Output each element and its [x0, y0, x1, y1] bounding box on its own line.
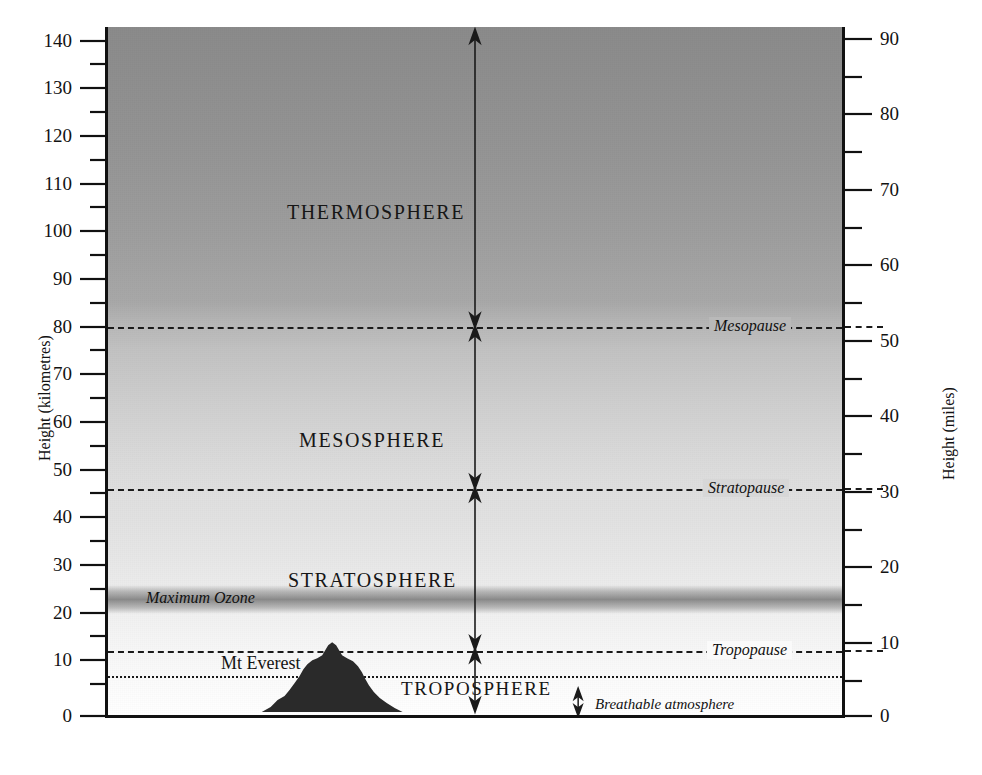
- mesopause-line-extension: [845, 326, 883, 328]
- tropopause-line-extension: [845, 650, 883, 652]
- mesopause-label: Mesopause: [709, 317, 791, 335]
- right-tick-label-10: 10: [880, 632, 899, 654]
- left-tick-label-20: 20: [24, 602, 72, 624]
- right-tick-label-50: 50: [880, 330, 899, 352]
- maximum-ozone-label: Maximum Ozone: [146, 589, 255, 607]
- stratopause-line-extension: [845, 488, 883, 490]
- layer-label-troposphere: TROPOSPHERE: [401, 678, 552, 700]
- left-tick-label-70: 70: [24, 363, 72, 385]
- right-axis-title: Height (miles): [940, 387, 958, 480]
- left-axis-minor-ticks: [90, 64, 105, 684]
- layer-label-thermosphere: THERMOSPHERE: [287, 201, 465, 224]
- left-tick-label-120: 120: [24, 125, 72, 147]
- stratopause-label: Stratopause: [703, 479, 789, 497]
- left-tick-label-0: 0: [24, 705, 72, 727]
- left-tick-label-50: 50: [24, 459, 72, 481]
- left-tick-label-30: 30: [24, 554, 72, 576]
- right-axis-major-ticks: [845, 39, 872, 716]
- right-tick-label-30: 30: [880, 481, 899, 503]
- left-tick-label-100: 100: [24, 220, 72, 242]
- right-tick-label-60: 60: [880, 254, 899, 276]
- breathable-atmosphere-label: Breathable atmosphere: [595, 696, 734, 713]
- right-axis-minor-ticks: [845, 77, 862, 681]
- right-tick-label-0: 0: [880, 705, 890, 727]
- plot-frame: Maximum Ozone THERMOSPHERE MESOSPHERE ST…: [105, 27, 845, 718]
- right-tick-label-20: 20: [880, 556, 899, 578]
- right-tick-label-80: 80: [880, 103, 899, 125]
- left-tick-label-80: 80: [24, 316, 72, 338]
- left-tick-label-140: 140: [24, 30, 72, 52]
- left-axis-major-ticks: [80, 41, 105, 716]
- right-tick-label-40: 40: [880, 405, 899, 427]
- layer-label-mesosphere: MESOSPHERE: [299, 429, 445, 452]
- left-tick-label-90: 90: [24, 268, 72, 290]
- left-tick-label-40: 40: [24, 506, 72, 528]
- left-tick-label-60: 60: [24, 411, 72, 433]
- left-tick-label-110: 110: [24, 173, 72, 195]
- atmosphere-layers-diagram: Maximum Ozone THERMOSPHERE MESOSPHERE ST…: [0, 0, 982, 775]
- plot-inner: Maximum Ozone THERMOSPHERE MESOSPHERE ST…: [108, 27, 842, 715]
- mt-everest-label: Mt Everest: [221, 653, 300, 674]
- layer-label-stratosphere: STRATOSPHERE: [288, 569, 457, 592]
- left-tick-label-130: 130: [24, 77, 72, 99]
- left-axis-title: Height (kilometres): [36, 335, 54, 461]
- right-tick-label-90: 90: [880, 28, 899, 50]
- left-tick-label-10: 10: [24, 649, 72, 671]
- right-tick-label-70: 70: [880, 179, 899, 201]
- tropopause-label: Tropopause: [707, 641, 792, 659]
